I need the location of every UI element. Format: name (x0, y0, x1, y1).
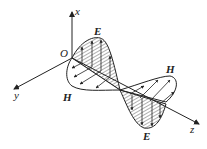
em-wave-diagram (0, 0, 207, 149)
origin-label: O (60, 48, 68, 59)
h-label-left: H (63, 92, 72, 103)
e-label-top: E (94, 26, 101, 37)
z-axis-label: z (190, 124, 194, 135)
y-axis-label: y (14, 90, 19, 101)
x-axis-label: x (75, 6, 80, 17)
h-label-right: H (166, 64, 175, 75)
y-axis (14, 58, 72, 89)
e-label-bottom: E (143, 131, 150, 142)
